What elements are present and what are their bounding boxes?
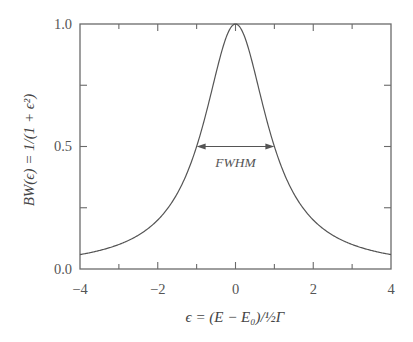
fwhm-double-arrow (197, 144, 275, 150)
x-tick-label-neg4: −4 (72, 281, 88, 297)
arrowhead-right-icon (265, 144, 274, 150)
x-tick-label-0: 0 (232, 281, 239, 297)
breit-wigner-chart: FWHM 1.0 0.5 0.0 −4 −2 0 2 4 ϵ = (E − E₀… (0, 0, 413, 342)
arrowhead-left-icon (197, 144, 206, 150)
y-tick-label-0.0: 0.0 (54, 261, 72, 277)
y-tick-label-0.5: 0.5 (54, 138, 72, 154)
y-tick-label-1.0: 1.0 (54, 16, 72, 32)
fwhm-label: FWHM (214, 155, 256, 170)
x-tick-label-4: 4 (387, 281, 395, 297)
x-tick-label-neg2: −2 (150, 281, 165, 297)
x-axis-label: ϵ = (E − E₀)/½Γ (186, 309, 286, 326)
y-axis-label: BW(ϵ) = 1/(1 + ϵ²) (21, 94, 38, 207)
x-tick-label-2: 2 (310, 281, 317, 297)
lorentzian-curve (80, 24, 391, 255)
